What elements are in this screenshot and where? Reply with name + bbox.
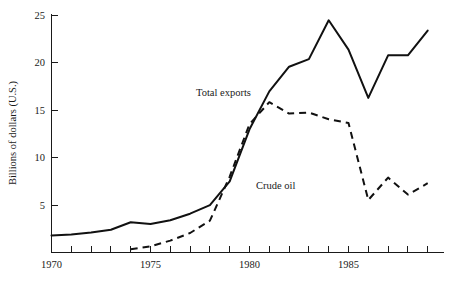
line-chart-plot: 25 20 15 10 5 1970 — [0, 0, 453, 281]
y-tick-label-25: 25 — [35, 10, 46, 21]
series-line-crude-oil — [131, 102, 428, 249]
x-tick-label-1985: 1985 — [338, 259, 359, 270]
series-annotation-crude-oil: Crude oil — [256, 180, 295, 191]
y-tick-label-10: 10 — [35, 152, 46, 163]
y-tick-label-20: 20 — [35, 57, 46, 68]
series-annotation-total-exports: Total exports — [196, 87, 251, 98]
series-line-total-exports — [52, 20, 428, 235]
chart-container: 25 20 15 10 5 1970 — [0, 0, 453, 281]
x-tick-label-1975: 1975 — [140, 259, 161, 270]
x-tick-label-1980: 1980 — [239, 259, 260, 270]
x-tick-marks — [52, 246, 428, 253]
y-tick-label-5: 5 — [40, 200, 45, 211]
y-tick-marks — [52, 15, 59, 205]
y-tick-label-15: 15 — [35, 105, 46, 116]
x-tick-label-1970: 1970 — [41, 259, 62, 270]
y-axis-title: Billions of dollars (U.S.) — [7, 80, 19, 185]
